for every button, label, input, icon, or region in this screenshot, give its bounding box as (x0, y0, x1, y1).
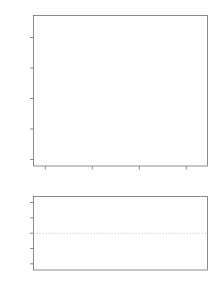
regression-residual-figure (0, 0, 223, 294)
figure-canvas (0, 0, 223, 294)
